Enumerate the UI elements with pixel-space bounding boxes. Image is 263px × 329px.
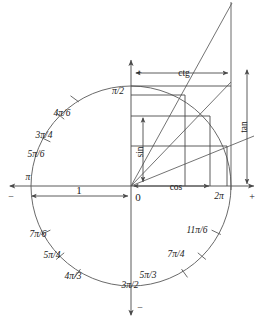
cos-label: cos [170, 182, 183, 192]
ray-shallow [131, 136, 254, 186]
angle-label-5pi-3: 5π/3 [140, 270, 157, 280]
radius-label: 1 [76, 184, 82, 196]
axis-label-2pi: 2π [214, 191, 224, 201]
angle-label-7pi-6: 7π/6 [30, 229, 47, 239]
cosine-projection-lines [185, 95, 227, 186]
trigonometry-figure: π 2π π/2 3π/2 − + + − 0 1 cos ctg sin ta… [0, 0, 263, 329]
axis-label-3pi-over-2: 3π/2 [121, 280, 139, 290]
axis-label-pi: π [26, 172, 31, 182]
angle-label-4pi-3: 4π/3 [65, 271, 82, 281]
origin-label: 0 [135, 191, 141, 203]
sin-label: sin [135, 146, 145, 157]
angle-label-7pi-4: 7π/4 [168, 249, 185, 259]
angle-label-4pi-6: 4π/6 [54, 108, 71, 118]
tick-4pi-6 [71, 96, 79, 102]
tan-label: tan [239, 121, 249, 133]
angle-rays [131, 3, 254, 186]
angle-label-11pi-6: 11π/6 [187, 225, 208, 235]
y-axis-positive-sign: + [136, 67, 142, 78]
angle-label-3pi-4: 3π/4 [35, 130, 53, 140]
sine-projection-lines [131, 95, 227, 146]
angle-label-5pi-6: 5π/6 [28, 149, 45, 159]
unit-circle-diagram: π 2π π/2 3π/2 − + + − 0 1 cos ctg sin ta… [0, 0, 263, 329]
ray-steep [131, 3, 232, 186]
angle-label-5pi-4: 5π/4 [44, 250, 61, 260]
y-axis-negative-sign: − [137, 302, 143, 313]
ctg-label: ctg [178, 68, 190, 78]
axis-label-pi-over-2: π/2 [112, 86, 124, 96]
x-axis-negative-sign: − [8, 191, 14, 202]
x-axis-positive-sign: + [249, 191, 255, 202]
